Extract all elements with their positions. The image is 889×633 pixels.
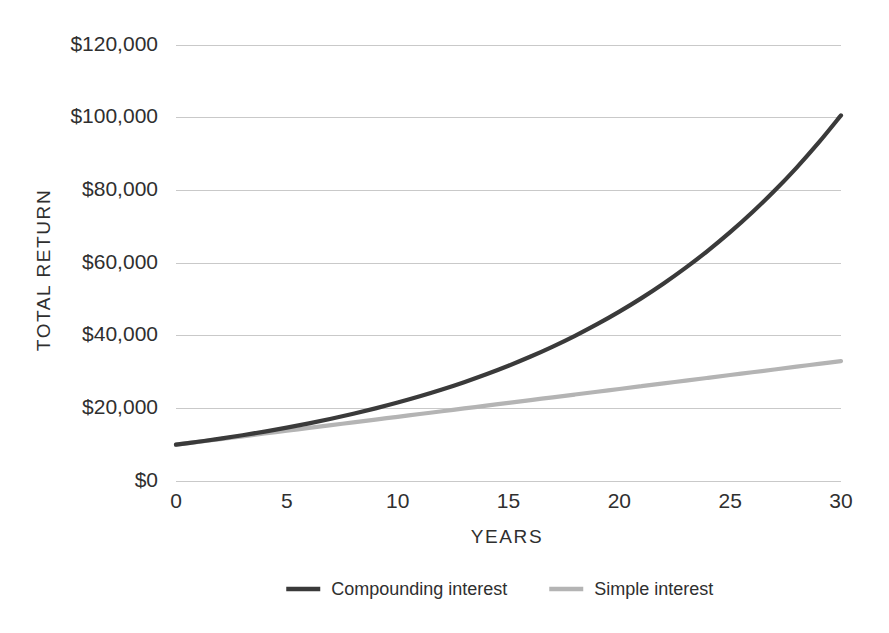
y-axis-tick-label: $80,000 (82, 177, 158, 200)
y-axis-title: TOTAL RETURN (33, 189, 54, 351)
x-axis-title: YEARS (471, 526, 543, 547)
y-axis-tick-label: $40,000 (82, 322, 158, 345)
x-axis-tick-label: 0 (170, 489, 182, 512)
x-axis-tick-label: 20 (608, 489, 631, 512)
x-axis-tick-label: 30 (829, 489, 852, 512)
x-axis-tick-label: 25 (718, 489, 741, 512)
line-chart: $0$20,000$40,000$60,000$80,000$100,000$1… (0, 0, 889, 633)
y-axis-tick-label: $0 (135, 468, 158, 491)
legend-label: Simple interest (594, 579, 713, 599)
chart-legend: Compounding interestSimple interest (286, 579, 713, 599)
legend-label: Compounding interest (331, 579, 507, 599)
y-axis-tick-label: $100,000 (70, 104, 158, 127)
chart-container: $0$20,000$40,000$60,000$80,000$100,000$1… (0, 0, 889, 633)
x-axis-tick-label: 5 (281, 489, 293, 512)
y-axis-tick-label: $120,000 (70, 32, 158, 55)
chart-background (0, 0, 889, 633)
x-axis-tick-label: 10 (386, 489, 409, 512)
y-axis-tick-label: $20,000 (82, 395, 158, 418)
x-axis-tick-label: 15 (497, 489, 520, 512)
y-axis-tick-label: $60,000 (82, 250, 158, 273)
